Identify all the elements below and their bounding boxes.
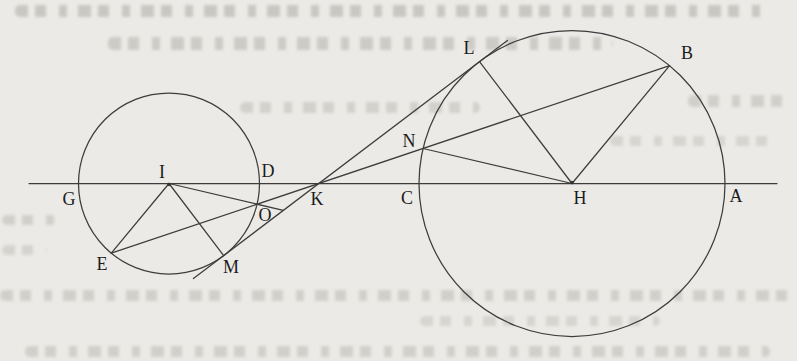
point-label-H: H [574, 188, 587, 208]
point-label-N: N [403, 131, 416, 151]
point-label-K: K [311, 189, 324, 209]
point-label-M: M [223, 257, 239, 277]
point-label-D: D [262, 161, 275, 181]
center-I-dot [167, 183, 170, 186]
tangent-line-MKL [193, 40, 507, 278]
geometry-figure: GEIDOMKCNLHBA [0, 0, 797, 361]
radius-HB [572, 66, 670, 184]
radius-IE [111, 184, 169, 254]
point-label-G: G [63, 189, 76, 209]
point-label-A: A [730, 186, 743, 206]
point-label-L: L [464, 38, 475, 58]
point-label-C: C [401, 188, 413, 208]
center-H-dot [570, 181, 573, 184]
point-label-E: E [97, 254, 108, 274]
point-label-I: I [159, 162, 165, 182]
secant-line-EOKNB [111, 66, 669, 254]
scanned-book-page: GEIDOMKCNLHBA [0, 0, 797, 361]
point-label-O: O [259, 205, 272, 225]
point-label-B: B [681, 43, 693, 63]
